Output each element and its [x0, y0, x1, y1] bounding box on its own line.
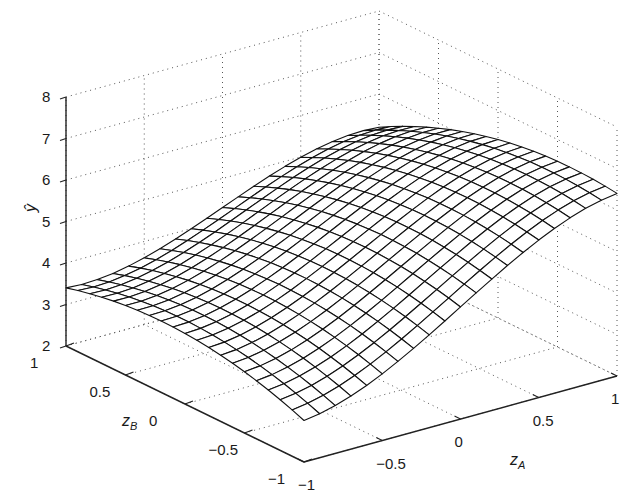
grid-line	[66, 11, 379, 97]
za-tick	[533, 395, 539, 398]
z-tick-label: 5	[42, 213, 50, 230]
grid-line	[66, 53, 379, 139]
z-axis-title: ŷ	[22, 203, 39, 213]
zb-tick-label: −0.5	[209, 441, 239, 458]
za-tick-label: 0.5	[533, 412, 554, 429]
z-tick	[60, 263, 66, 265]
za-tick	[611, 373, 617, 376]
zb-tick	[126, 372, 134, 375]
z-tick-label: 3	[42, 296, 50, 313]
z-tick-label: 4	[42, 254, 50, 271]
z-tick	[60, 180, 66, 182]
z-tick	[60, 305, 66, 307]
z-tick	[60, 346, 66, 348]
za-tick	[455, 416, 461, 419]
surface-mesh	[66, 126, 617, 420]
za-tick-label: 1	[611, 390, 619, 407]
zb-tick-label: 0.5	[90, 383, 111, 400]
z-tick	[60, 222, 66, 224]
zb-tick-label: 0	[149, 412, 157, 429]
zb-axis-title: zB	[121, 412, 137, 432]
z-tick-label: 2	[42, 337, 50, 354]
za-tick-label: −1	[298, 476, 315, 493]
z-tick-label: 7	[42, 130, 50, 147]
zb-tick-label: 1	[30, 354, 38, 371]
z-tick-label: 6	[42, 171, 50, 188]
zb-tick	[245, 430, 253, 433]
z-tick	[60, 139, 66, 141]
z-tick	[60, 97, 66, 99]
zb-tick-label: −1	[268, 470, 285, 487]
grid-line	[379, 11, 617, 127]
za-tick-label: −0.5	[376, 455, 406, 472]
zb-tick	[185, 401, 193, 404]
za-tick	[298, 459, 304, 462]
za-axis-title: zA	[509, 451, 525, 471]
za-tick-label: 0	[455, 433, 463, 450]
z-tick-label: 8	[42, 88, 50, 105]
surface-plot: 2345678−1−0.500.51−1−0.500.51 ŷ zB zA	[0, 0, 644, 497]
za-tick	[376, 438, 382, 441]
zb-tick	[66, 343, 74, 346]
